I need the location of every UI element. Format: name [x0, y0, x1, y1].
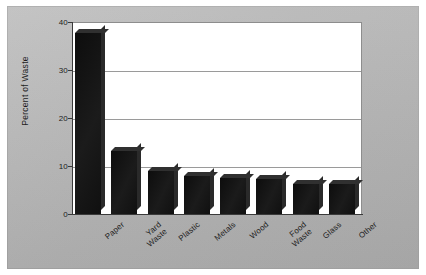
bar-face: [220, 178, 246, 214]
bar-face: [293, 184, 319, 214]
gridline: [72, 71, 361, 72]
bar-face: [256, 179, 282, 214]
y-tick-label: 20: [59, 114, 68, 123]
y-axis-line: [72, 22, 73, 215]
bar: [329, 184, 355, 214]
bar: [111, 151, 137, 214]
y-tick-label: 10: [59, 162, 68, 171]
x-axis-line: [72, 214, 363, 215]
bar-face: [111, 151, 137, 214]
bar-face: [75, 33, 101, 214]
bar-face: [329, 184, 355, 214]
bar-top-shading: [111, 147, 145, 151]
gridline: [72, 119, 361, 120]
bar: [256, 179, 282, 214]
bar: [75, 33, 101, 214]
plot-area: [72, 22, 362, 214]
bar-top-shading: [184, 172, 218, 176]
bar: [293, 184, 319, 214]
bar-side-shading: [101, 25, 105, 210]
bar-face: [184, 176, 210, 214]
bar-top-shading: [148, 167, 182, 171]
chart-figure: Percent of Waste 403020100 PaperYard Was…: [0, 0, 426, 275]
y-axis-title: Percent of Waste: [20, 36, 30, 146]
bar: [148, 171, 174, 214]
bar-side-shading: [137, 143, 141, 210]
bar: [220, 178, 246, 214]
y-tick-label: 40: [59, 18, 68, 27]
bar-top-shading: [293, 180, 327, 184]
bar-top-shading: [75, 29, 109, 33]
y-tick-label: 30: [59, 66, 68, 75]
bar-face: [148, 171, 174, 214]
bar: [184, 176, 210, 214]
y-axis-ticks: 403020100: [48, 0, 68, 275]
bar-top-shading: [329, 180, 363, 184]
bar-top-shading: [220, 174, 254, 178]
bar-top-shading: [256, 175, 290, 179]
